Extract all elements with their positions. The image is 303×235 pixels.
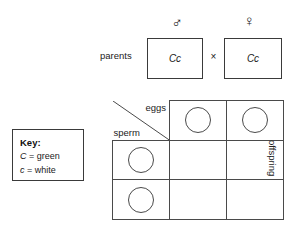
mother-genotype-text: Cc: [247, 53, 259, 64]
key-allele-recessive: c: [20, 165, 25, 175]
axis-corner-cell: eggs sperm: [113, 101, 170, 141]
gamete-circle-icon: [128, 147, 154, 173]
punnett-table: eggs sperm: [112, 100, 284, 220]
father-genotype-text: Cc: [169, 53, 181, 64]
father-genotype-box: Cc: [147, 38, 203, 79]
table-row-header: eggs sperm: [113, 101, 284, 141]
sperm-gamete-cell-1[interactable]: [113, 180, 170, 220]
gamete-circle-icon: [242, 107, 268, 133]
diagram-canvas: parents ♂ Cc × ♀ Cc Key: C = green c = w…: [0, 0, 303, 235]
offspring-cell-1-1[interactable]: [227, 180, 284, 220]
table-row: [113, 140, 284, 180]
key-phenotype-recessive: white: [35, 165, 56, 175]
egg-gamete-cell-1[interactable]: [227, 101, 284, 141]
gamete-circle-icon: [185, 107, 211, 133]
mother-genotype-box: Cc: [224, 38, 282, 79]
offspring-label: offspring: [267, 140, 278, 176]
key-equals-1: =: [27, 165, 32, 175]
offspring-cell-0-0[interactable]: [170, 140, 227, 180]
sperm-axis-label: sperm: [114, 127, 140, 138]
offspring-cell-1-0[interactable]: [170, 180, 227, 220]
table-row: [113, 180, 284, 220]
gamete-circle-icon: [128, 187, 154, 213]
parents-label: parents: [100, 50, 132, 62]
key-entry-0: C = green: [20, 149, 83, 163]
key-entry-1: c = white: [20, 163, 83, 177]
egg-gamete-cell-0[interactable]: [170, 101, 227, 141]
key-allele-dominant: C: [20, 151, 27, 161]
key-title: Key:: [20, 136, 83, 149]
key-box: Key: C = green c = white: [12, 129, 84, 181]
cross-symbol: ×: [203, 51, 224, 62]
sperm-gamete-cell-0[interactable]: [113, 140, 170, 180]
corner-inner: eggs sperm: [113, 101, 170, 140]
male-symbol-icon: ♂: [167, 15, 187, 30]
key-equals-0: =: [29, 151, 34, 161]
eggs-axis-label: eggs: [145, 102, 166, 113]
key-phenotype-dominant: green: [37, 151, 60, 161]
punnett-square-grid: eggs sperm: [112, 100, 283, 220]
female-symbol-icon: ♀: [239, 13, 259, 28]
